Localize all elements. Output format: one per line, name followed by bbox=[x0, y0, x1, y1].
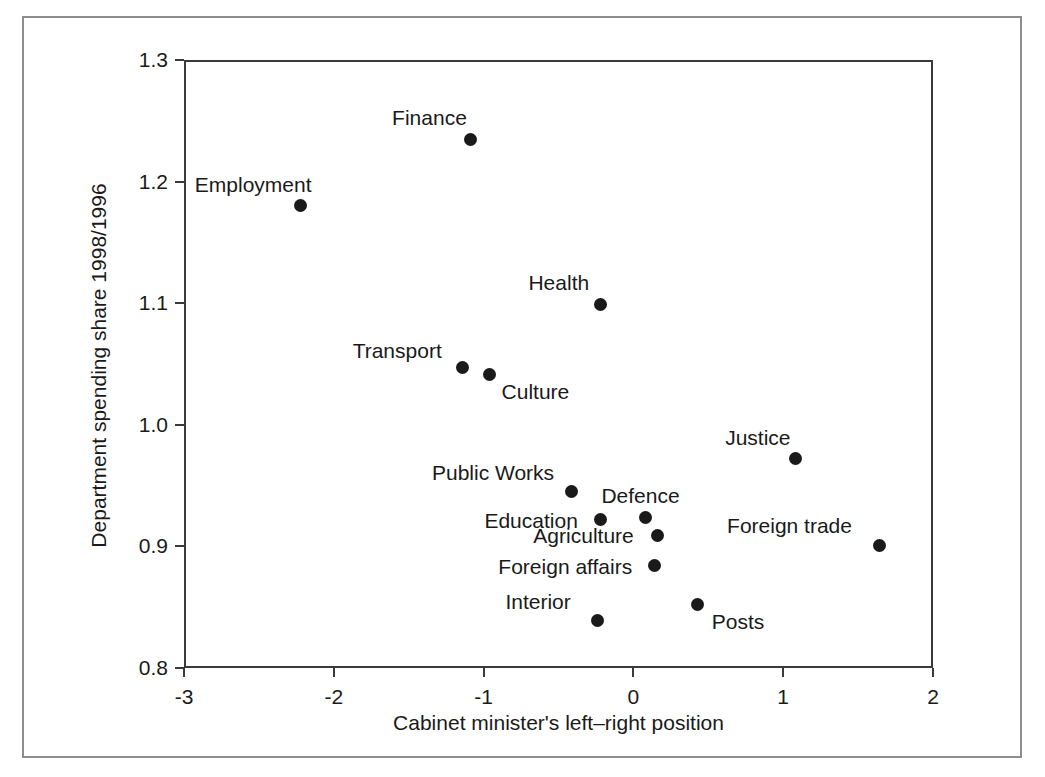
data-point-label: Transport bbox=[353, 340, 442, 361]
y-tick-mark bbox=[175, 424, 184, 426]
data-point-label: Posts bbox=[712, 611, 765, 632]
y-tick-label: 0.9 bbox=[108, 535, 168, 556]
x-tick-mark bbox=[632, 668, 634, 677]
data-point-label: Foreign trade bbox=[727, 515, 852, 536]
y-tick-mark bbox=[175, 181, 184, 183]
data-point bbox=[639, 511, 652, 524]
data-point bbox=[651, 529, 664, 542]
y-tick-mark bbox=[175, 302, 184, 304]
scatter-chart: 0.80.91.01.11.21.3 -3-2-1012 Department … bbox=[0, 0, 1045, 777]
x-tick-label: -1 bbox=[454, 686, 514, 707]
x-tick-label: -3 bbox=[154, 686, 214, 707]
data-point-label: Justice bbox=[725, 427, 790, 448]
x-tick-label: 1 bbox=[753, 686, 813, 707]
y-tick-mark bbox=[175, 545, 184, 547]
y-tick-label: 1.0 bbox=[108, 414, 168, 435]
x-tick-mark bbox=[333, 668, 335, 677]
x-tick-mark bbox=[483, 668, 485, 677]
data-point-label: Culture bbox=[502, 381, 570, 402]
data-point-label: Health bbox=[528, 272, 589, 293]
data-point-label: Agriculture bbox=[533, 525, 633, 546]
data-point bbox=[594, 298, 607, 311]
data-point-label: Employment bbox=[195, 174, 312, 195]
x-tick-label: -2 bbox=[304, 686, 364, 707]
data-point bbox=[873, 539, 886, 552]
data-point-label: Interior bbox=[505, 591, 570, 612]
data-point bbox=[591, 614, 604, 627]
y-axis-title: Department spending share 1998/1996 bbox=[88, 56, 109, 676]
x-tick-mark bbox=[932, 668, 934, 677]
data-point bbox=[464, 133, 477, 146]
y-tick-label: 1.1 bbox=[108, 292, 168, 313]
data-point-label: Finance bbox=[392, 107, 467, 128]
y-tick-label: 1.3 bbox=[108, 49, 168, 70]
data-point bbox=[789, 452, 802, 465]
x-axis-title: Cabinet minister's left–right position bbox=[184, 712, 933, 733]
data-point-label: Defence bbox=[601, 485, 679, 506]
y-tick-label: 0.8 bbox=[108, 657, 168, 678]
x-tick-mark bbox=[782, 668, 784, 677]
y-tick-mark bbox=[175, 59, 184, 61]
y-tick-label: 1.2 bbox=[108, 171, 168, 192]
x-tick-label: 2 bbox=[903, 686, 963, 707]
data-point-label: Foreign affairs bbox=[498, 556, 632, 577]
x-tick-label: 0 bbox=[603, 686, 663, 707]
data-point-label: Public Works bbox=[432, 462, 554, 483]
x-tick-mark bbox=[183, 668, 185, 677]
